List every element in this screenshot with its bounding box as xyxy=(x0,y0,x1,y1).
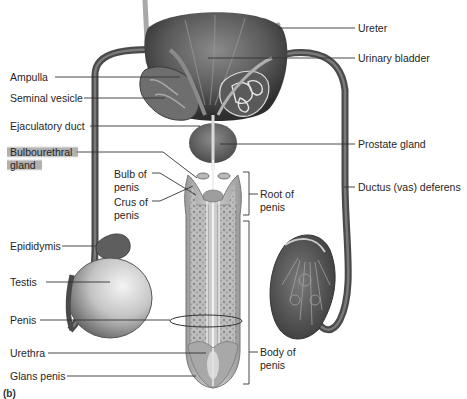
label-urethra: Urethra xyxy=(10,347,45,360)
label-bulb-of-penis: Bulb of penis xyxy=(114,168,147,193)
anatomy-diagram: Ampulla Seminal vesicle Ejaculatory duct… xyxy=(0,0,467,399)
panel-label: (b) xyxy=(3,388,16,399)
label-glans-penis: Glans penis xyxy=(10,370,65,383)
label-penis: Penis xyxy=(10,314,36,327)
label-root-of-penis: Root of penis xyxy=(260,188,294,213)
testis-left xyxy=(68,234,152,338)
highlighted-text: Bulbourethral xyxy=(7,146,78,158)
label-urinary-bladder: Urinary bladder xyxy=(358,52,430,65)
epididymis xyxy=(96,234,130,259)
label-ductus-deferens: Ductus (vas) deferens xyxy=(358,181,461,194)
label-bulbourethral-gland: Bulbourethral gland xyxy=(10,146,78,171)
testis-right-section xyxy=(270,235,335,339)
label-ejaculatory-duct: Ejaculatory duct xyxy=(10,120,85,133)
bulb-of-penis xyxy=(203,190,223,202)
penis-section xyxy=(185,160,242,388)
bulbourethral-gland-right xyxy=(218,173,230,179)
label-epididymis: Epididymis xyxy=(10,240,61,253)
bulbourethral-gland-left xyxy=(197,173,209,179)
highlighted-text: gland xyxy=(7,159,42,171)
label-testis: Testis xyxy=(10,276,37,289)
label-body-of-penis: Body of penis xyxy=(260,346,296,371)
label-seminal-vesicle: Seminal vesicle xyxy=(10,92,83,105)
label-crus-of-penis: Crus of penis xyxy=(114,196,148,221)
label-ureter: Ureter xyxy=(358,22,387,35)
label-ampulla: Ampulla xyxy=(10,71,48,84)
label-prostate-gland: Prostate gland xyxy=(358,138,426,151)
